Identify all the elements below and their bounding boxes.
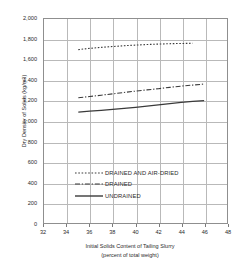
legend-item: UNDRAINED xyxy=(74,190,224,202)
legend-line-swatch xyxy=(74,169,104,177)
chart-legend: DRAINED AND AIR-DRIEDDRAINEDUNDRAINED xyxy=(74,167,224,202)
y-axis-tick-label: 2,000 xyxy=(1,15,37,21)
x-axis-tickmark xyxy=(136,224,137,227)
x-axis-tickmark xyxy=(66,224,67,227)
x-axis-tick-label: 32 xyxy=(33,229,53,235)
x-axis-tick-label: 42 xyxy=(149,229,169,235)
legend-label: UNDRAINED xyxy=(104,193,141,199)
legend-label: DRAINED xyxy=(104,181,132,187)
x-axis-tickmark xyxy=(182,224,183,227)
x-axis-tick-label: 34 xyxy=(56,229,76,235)
x-axis-tickmark xyxy=(89,224,90,227)
x-axis-tickmark xyxy=(43,224,44,227)
y-axis-tick-label: 1,600 xyxy=(1,56,37,62)
y-axis-tick-label: 600 xyxy=(1,159,37,165)
y-axis-tick-label: 1,200 xyxy=(1,97,37,103)
series-line xyxy=(78,101,204,112)
x-axis-title: Initial Solids Content of Tailing Slurry… xyxy=(30,242,230,259)
x-axis-tickmark xyxy=(205,224,206,227)
chart-container: Dry Density of Solids (kg/m3) 0200400600… xyxy=(0,0,244,269)
legend-label: DRAINED AND AIR-DRIED xyxy=(104,170,179,176)
x-axis-title-line2: (percent of total weight) xyxy=(30,251,230,260)
y-axis-tick-label: 0 xyxy=(1,221,37,227)
legend-line-swatch xyxy=(74,180,104,188)
y-axis-tick-label: 1,000 xyxy=(1,118,37,124)
legend-line-swatch xyxy=(74,192,104,200)
x-axis-tick-label: 40 xyxy=(126,229,146,235)
y-axis-tick-label: 800 xyxy=(1,139,37,145)
y-axis-tick-label: 200 xyxy=(1,200,37,206)
series-line xyxy=(78,84,204,98)
legend-item: DRAINED xyxy=(74,179,224,191)
x-axis-tickmark xyxy=(228,224,229,227)
x-axis-title-line1: Initial Solids Content of Tailing Slurry xyxy=(30,242,230,251)
x-axis-tick-label: 46 xyxy=(195,229,215,235)
x-axis-tick-label: 36 xyxy=(79,229,99,235)
legend-item: DRAINED AND AIR-DRIED xyxy=(74,167,224,179)
y-axis-tick-label: 400 xyxy=(1,180,37,186)
x-axis-tick-label: 44 xyxy=(172,229,192,235)
x-axis-tick-label: 48 xyxy=(218,229,238,235)
y-axis-tick-label: 1,400 xyxy=(1,77,37,83)
series-line xyxy=(78,43,192,49)
x-axis-tick-label: 38 xyxy=(102,229,122,235)
x-axis-tickmark xyxy=(112,224,113,227)
x-axis-tick-labels: 323436384042444648 xyxy=(43,224,228,240)
x-axis-tickmark xyxy=(159,224,160,227)
y-axis-tick-label: 1,800 xyxy=(1,36,37,42)
